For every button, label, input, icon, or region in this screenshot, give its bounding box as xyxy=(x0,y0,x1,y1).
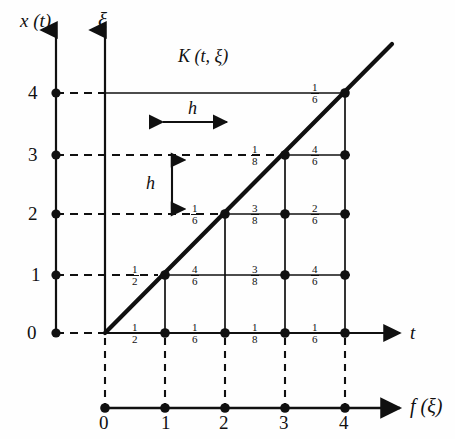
f-tick-1: 1 xyxy=(161,412,171,434)
weight-t4-x2: 2 6 xyxy=(311,203,319,226)
weight-t4-x3: 4 6 xyxy=(311,144,319,167)
weight-t3-x1: 3 8 xyxy=(251,264,259,287)
x-tick-3: 3 xyxy=(28,144,38,166)
weight-t1-x1: 1 2 xyxy=(131,264,139,287)
weight-t2-x1: 4 6 xyxy=(191,264,199,287)
h-label-horizontal: h xyxy=(188,98,197,119)
weight-t4-x4: 1 6 xyxy=(311,82,319,105)
kernel-quadrature-figure: x (t) ξ t f (ξ) K (t, ξ) h h 0 1 2 3 4 0… xyxy=(0,0,455,439)
weight-t3-x0: 1 8 xyxy=(251,322,259,345)
xi-axis-label: ξ xyxy=(98,8,107,33)
x-tick-2: 2 xyxy=(28,203,38,225)
weight-t2-x0: 1 6 xyxy=(191,322,199,345)
f-axis-droppers xyxy=(105,338,345,404)
x-tick-0: 0 xyxy=(27,322,37,344)
f-tick-2: 2 xyxy=(219,412,229,434)
weight-t2-x2: 1 6 xyxy=(191,203,199,226)
h-label-vertical: h xyxy=(146,173,155,194)
x-tick-1: 1 xyxy=(31,264,41,286)
weight-t1-x0: 1 2 xyxy=(131,322,139,345)
t-axis-label: t xyxy=(410,322,415,344)
f-tick-4: 4 xyxy=(339,412,349,434)
x-tick-4: 4 xyxy=(28,82,38,104)
x-axis-label: x (t) xyxy=(20,10,51,32)
weight-t3-x2: 3 8 xyxy=(251,203,259,226)
weight-t3-x3: 1 8 xyxy=(251,144,259,167)
weight-t4-x1: 4 6 xyxy=(311,264,319,287)
f-axis-label: f (ξ) xyxy=(410,395,442,418)
f-tick-3: 3 xyxy=(279,412,289,434)
weight-t4-x0: 1 6 xyxy=(311,322,319,345)
figure-title: K (t, ξ) xyxy=(178,46,228,67)
f-tick-0: 0 xyxy=(99,412,109,434)
horizontal-guide-lines xyxy=(56,155,278,333)
